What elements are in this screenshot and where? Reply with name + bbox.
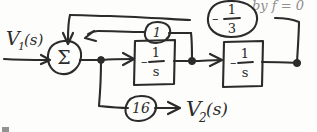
wire-block-2-to-node-c (262, 62, 296, 63)
wire-gain-16-to-output (155, 102, 180, 114)
block-1-minus: – (141, 54, 148, 69)
block-diagram-svg: by f = 0 (0, 0, 317, 132)
sigma-symbol: Σ (57, 46, 70, 68)
gain-neg-third-denominator: 3 (228, 21, 236, 36)
input-signal-label: V 1 (s) (6, 27, 44, 53)
block-2-minus: – (230, 55, 237, 70)
gain-sixteen-value: 16 (132, 100, 150, 116)
transfer-block-1[interactable]: – 1 s (134, 40, 175, 85)
gain-neg-third[interactable]: – 1 3 (208, 1, 257, 37)
gain-sixteen[interactable]: 16 (126, 96, 157, 121)
output-signal-label: V 2 (s) (186, 97, 228, 125)
wire-inner-feedback-tap (191, 33, 192, 60)
gain-unity-value: 1 (153, 25, 161, 40)
takeoff-node-a (98, 57, 105, 64)
takeoff-node-c (293, 59, 300, 66)
summing-junction[interactable]: Σ (48, 41, 81, 74)
stray-mark (2, 127, 9, 132)
gain-neg-third-numerator: 1 (228, 2, 236, 17)
wire-inner-feedback-left (85, 31, 145, 41)
block-1-numerator: 1 (152, 45, 160, 60)
wire-input (4, 55, 50, 64)
takeoff-node-b (188, 57, 195, 64)
block-1-denominator: s (153, 64, 160, 79)
edge-cutoff-label: by f = 0 (252, 0, 304, 13)
edge-cutoff-text: by f = 0 (252, 0, 304, 13)
wire-node-b-to-block-2 (193, 54, 222, 66)
block-2-denominator: s (242, 65, 249, 80)
input-label-paren: (s) (24, 31, 44, 49)
transfer-block-2[interactable]: – 1 s (223, 41, 263, 87)
wire-node-a-to-block-1 (102, 53, 134, 65)
output-label-paren: (s) (206, 99, 228, 119)
block-2-numerator: 1 (241, 46, 249, 61)
wire-outer-feedback-right (275, 18, 299, 62)
wire-node-a-to-gain-16 (99, 61, 128, 108)
gain-neg-third-minus: – (212, 11, 219, 26)
diagram-canvas: by f = 0 (0, 0, 317, 132)
